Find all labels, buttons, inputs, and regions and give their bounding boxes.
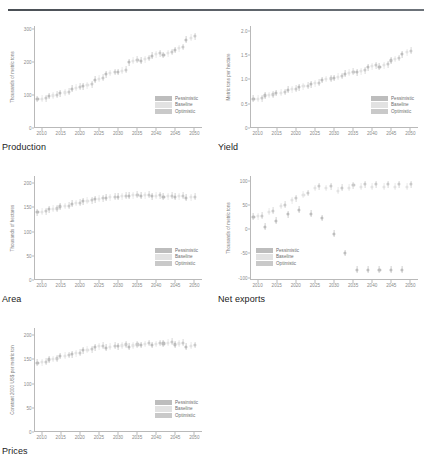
data-point-baseline (189, 196, 192, 199)
data-point-optimistic (147, 56, 150, 59)
data-point-baseline (359, 70, 362, 73)
data-point-pessimistic (366, 268, 369, 271)
data-point-optimistic (90, 83, 93, 86)
y-axis-title: Thousands of hectares (10, 176, 15, 280)
x-axis-tick-mark (295, 128, 296, 131)
data-point-baseline (178, 195, 181, 198)
data-point-baseline (97, 77, 100, 80)
data-point-optimistic (283, 91, 286, 94)
legend-swatch-icon (155, 102, 172, 107)
data-point-pessimistic (309, 212, 312, 215)
y-axis-tick-mark (32, 95, 35, 96)
x-axis-tick-mark (175, 128, 176, 131)
legend-prices: PessimisticBaselineOptimistic (155, 400, 198, 418)
legend-label: Baseline (276, 254, 294, 259)
chart-panel-production: 0100200300201020152020202520302035204020… (0, 12, 216, 162)
data-point-pessimistic (309, 83, 312, 86)
y-axis-tick-mark (32, 255, 35, 256)
data-point-optimistic (193, 35, 196, 38)
x-axis-tick-mark (391, 280, 392, 283)
data-point-pessimistic (355, 71, 358, 74)
panel-title-prices: Prices (2, 446, 28, 456)
data-point-pessimistic (150, 54, 153, 57)
data-point-pessimistic (252, 97, 255, 100)
legend-swatch-icon (155, 254, 172, 259)
y-axis-tick-mark (32, 62, 35, 63)
data-point-pessimistic (150, 343, 153, 346)
data-point-pessimistic (378, 65, 381, 68)
legend-yield: PessimisticBaselineOptimistic (371, 96, 414, 114)
data-point-baseline (97, 345, 100, 348)
data-point-optimistic (340, 74, 343, 77)
data-point-baseline (109, 345, 112, 348)
data-point-pessimistic (116, 345, 119, 348)
legend-item-optimistic[interactable]: Optimistic (155, 413, 198, 418)
data-point-optimistic (79, 351, 82, 354)
x-axis-tick-mark (410, 280, 411, 283)
legend-item-optimistic[interactable]: Optimistic (155, 261, 198, 266)
legend-item-baseline[interactable]: Baseline (371, 102, 414, 107)
legend-item-optimistic[interactable]: Optimistic (155, 109, 198, 114)
data-point-baseline (256, 97, 259, 100)
legend-item-optimistic[interactable]: Optimistic (256, 261, 299, 266)
y-axis-tick-mark (32, 383, 35, 384)
data-point-baseline (40, 97, 43, 100)
data-point-pessimistic (36, 361, 39, 364)
legend-item-baseline[interactable]: Baseline (256, 254, 299, 259)
legend-net-exports: PessimisticBaselineOptimistic (256, 248, 299, 266)
legend-item-baseline[interactable]: Baseline (155, 102, 198, 107)
data-point-pessimistic (70, 87, 73, 90)
legend-label: Pessimistic (175, 96, 198, 101)
data-point-pessimistic (47, 358, 50, 361)
y-axis-title: Constant 2000 US$ per metric ton (10, 328, 15, 432)
data-point-baseline (325, 77, 328, 80)
legend-swatch-icon (155, 261, 172, 266)
legend-item-pessimistic[interactable]: Pessimistic (155, 248, 198, 253)
data-point-pessimistic (321, 217, 324, 220)
x-axis-tick-mark (334, 280, 335, 283)
data-point-optimistic (386, 183, 389, 186)
data-point-pessimistic (59, 205, 62, 208)
data-point-baseline (348, 186, 351, 189)
x-axis-tick-mark (257, 280, 258, 283)
x-axis-tick-mark (353, 128, 354, 131)
y-axis-tick-mark (32, 280, 35, 281)
data-point-baseline (313, 82, 316, 85)
x-axis-tick-mark (98, 432, 99, 435)
legend-area: PessimisticBaselineOptimistic (155, 248, 198, 266)
data-point-baseline (86, 348, 89, 351)
x-axis-tick-mark (98, 280, 99, 283)
data-point-baseline (290, 199, 293, 202)
legend-item-pessimistic[interactable]: Pessimistic (256, 248, 299, 253)
legend-item-baseline[interactable]: Baseline (155, 254, 198, 259)
legend-item-baseline[interactable]: Baseline (155, 406, 198, 411)
y-axis-tick-mark (248, 229, 251, 230)
legend-label: Pessimistic (175, 400, 198, 405)
data-point-baseline (382, 185, 385, 188)
data-point-baseline (394, 185, 397, 188)
y-axis-tick-mark (32, 407, 35, 408)
legend-swatch-icon (155, 400, 172, 405)
data-point-optimistic (182, 46, 185, 49)
data-point-baseline (143, 342, 146, 345)
data-point-optimistic (260, 97, 263, 100)
legend-label: Optimistic (391, 109, 411, 114)
data-point-baseline (359, 185, 362, 188)
data-point-pessimistic (162, 53, 165, 56)
legend-item-optimistic[interactable]: Optimistic (371, 109, 414, 114)
legend-item-pessimistic[interactable]: Pessimistic (155, 96, 198, 101)
legend-item-pessimistic[interactable]: Pessimistic (371, 96, 414, 101)
x-axis-tick-mark (410, 128, 411, 131)
data-point-pessimistic (105, 346, 108, 349)
data-point-baseline (325, 187, 328, 190)
legend-item-pessimistic[interactable]: Pessimistic (155, 400, 198, 405)
data-point-pessimistic (47, 95, 50, 98)
data-point-optimistic (352, 184, 355, 187)
legend-label: Baseline (175, 102, 193, 107)
x-axis-tick-mark (156, 280, 157, 283)
data-point-pessimistic (298, 208, 301, 211)
data-point-baseline (290, 88, 293, 91)
legend-swatch-icon (256, 248, 273, 253)
data-point-pessimistic (263, 94, 266, 97)
data-point-optimistic (375, 183, 378, 186)
